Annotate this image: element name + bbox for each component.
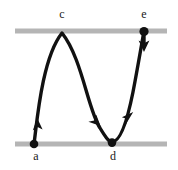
point-label-c: c: [54, 8, 70, 20]
point-label-e: e: [136, 8, 152, 20]
point-label-a: a: [28, 150, 44, 162]
diagram-canvas: [0, 0, 178, 170]
arrow-up-from-a-icon: [33, 118, 43, 131]
trajectory-curve: [34, 31, 144, 144]
curve-diagram: c e a d: [0, 0, 178, 170]
point-label-d: d: [105, 150, 121, 162]
point-marker-d: [108, 138, 117, 147]
point-marker-e: [139, 27, 148, 36]
point-marker-a: [30, 140, 39, 149]
